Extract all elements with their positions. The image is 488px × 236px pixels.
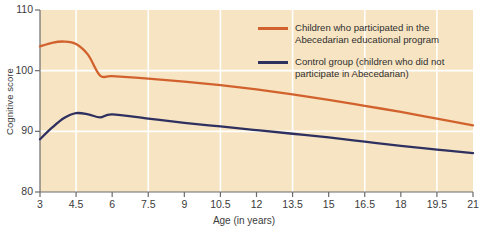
legend-label-abecedarian: Children who participated in the Abeceda… <box>295 22 439 46</box>
x-tick-label: 16.5 <box>355 198 375 210</box>
x-tick-label: 21 <box>467 198 479 210</box>
x-axis-label: Age (in years) <box>0 215 488 226</box>
cognitive-score-line-chart: Cognitive score 8090100110 34.567.5910.5… <box>0 0 488 236</box>
y-tick-label: 100 <box>0 64 33 76</box>
legend-label-control: Control group (children who did not part… <box>295 56 444 80</box>
x-tick-label: 4.5 <box>69 198 84 210</box>
legend-swatch-abecedarian <box>258 27 288 30</box>
x-tick-label: 6 <box>109 198 115 210</box>
legend-swatch-control <box>258 61 288 64</box>
legend-item-abecedarian: Children who participated in the Abeceda… <box>258 22 478 46</box>
x-tick-label: 19.5 <box>427 198 447 210</box>
x-tick-label: 13.5 <box>282 198 302 210</box>
y-tick-label: 80 <box>0 185 33 197</box>
x-tick-label: 3 <box>37 198 43 210</box>
x-tick-label: 7.5 <box>141 198 156 210</box>
y-tick-label: 90 <box>0 124 33 136</box>
x-tick-label: 12 <box>251 198 263 210</box>
x-tick-label: 9 <box>181 198 187 210</box>
x-tick-label: 10.5 <box>210 198 230 210</box>
x-tick-label: 15 <box>323 198 335 210</box>
x-tick-label: 18 <box>395 198 407 210</box>
legend-item-control: Control group (children who did not part… <box>258 56 480 80</box>
y-tick-label: 110 <box>0 3 33 15</box>
